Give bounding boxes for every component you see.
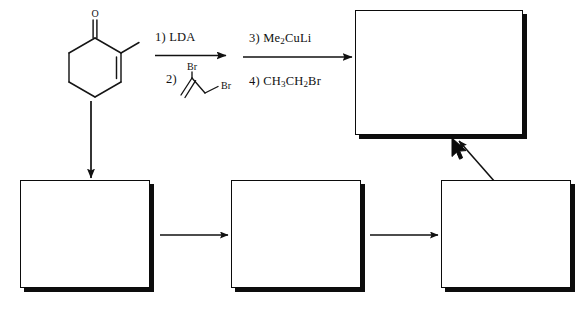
- connector-arrow-diagonal: [459, 141, 495, 182]
- step-2-reagent-below: 4) CH3CH2Br: [249, 74, 321, 89]
- step-1-reagent-above: 1) LDA: [155, 30, 195, 45]
- answer-box-intermediate-2[interactable]: [231, 180, 361, 288]
- bromine-label-allylic: Br: [221, 80, 232, 91]
- answer-box-intermediate-3[interactable]: [441, 180, 571, 288]
- step-1-number-below: 2): [166, 72, 177, 87]
- dibromopropene-structure: [181, 72, 218, 98]
- bromine-label-vinylic: Br: [187, 61, 198, 72]
- step-2-number-below: 4): [249, 74, 260, 88]
- step-2-reagent-above: 3) Me2CuLi: [249, 31, 311, 46]
- step-1-reagent-lda: LDA: [169, 30, 195, 44]
- starting-material-structure: [69, 20, 139, 97]
- step-2-reagent-me2culi: Me2CuLi: [263, 31, 311, 45]
- answer-box-final-product[interactable]: [355, 10, 523, 135]
- step-1-number-above: 1): [155, 30, 166, 44]
- step-2-reagent-ethylbromide: CH3CH2Br: [263, 74, 321, 88]
- answer-box-intermediate-1[interactable]: [20, 180, 150, 288]
- carbonyl-oxygen-label: O: [91, 8, 98, 19]
- step-2-number-above: 3): [249, 31, 260, 45]
